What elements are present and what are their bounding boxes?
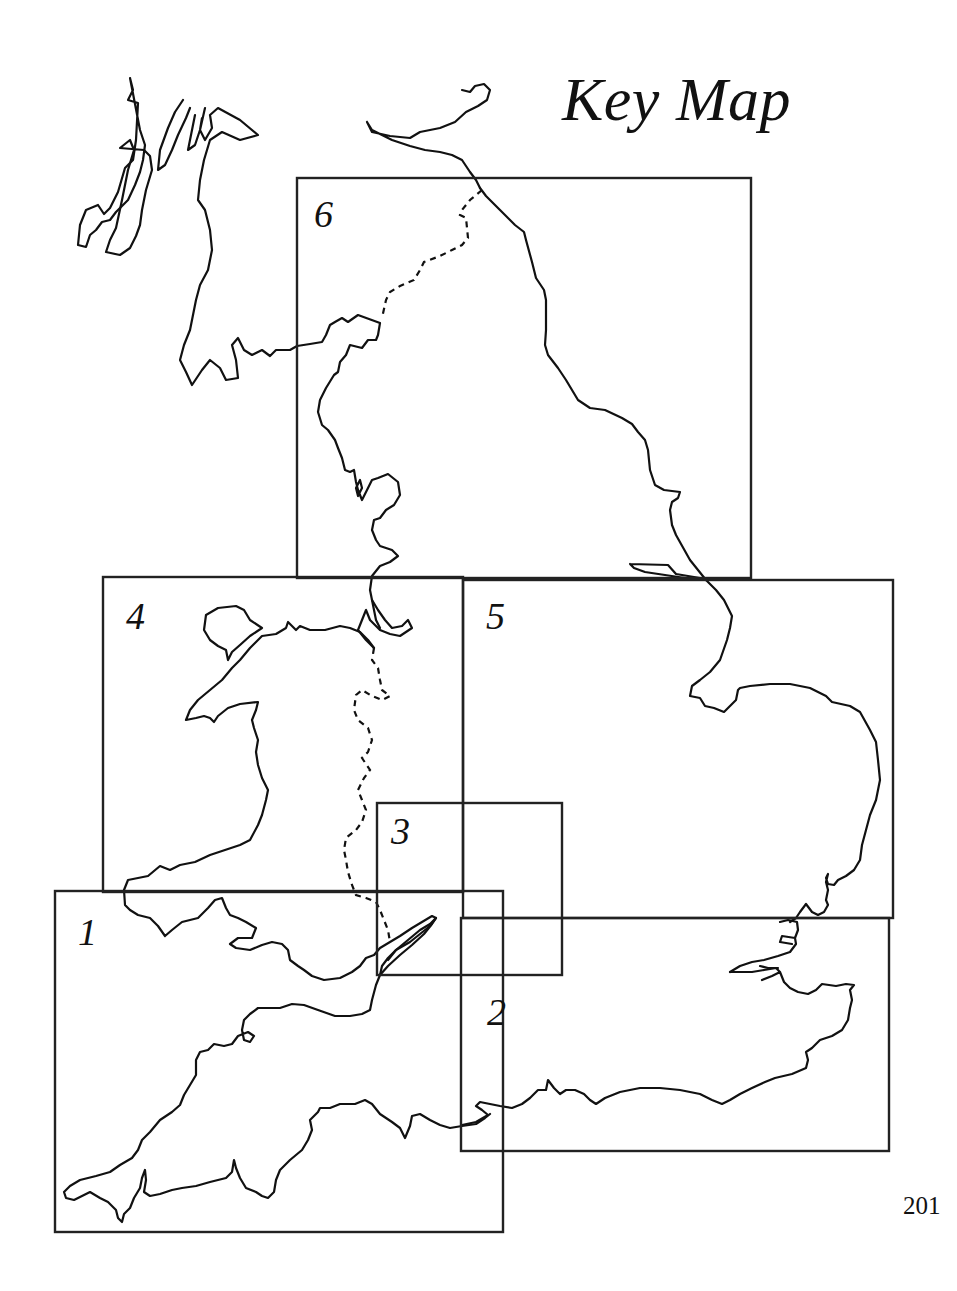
key-map-canvas [0, 0, 957, 1291]
sheet-label-3: 3 [391, 812, 410, 850]
sheet-label-5: 5 [486, 597, 505, 635]
sheet-label-6: 6 [314, 195, 333, 233]
coast-thames [730, 920, 798, 972]
coast-scotland-west [78, 78, 145, 247]
sheet-box-1[interactable] [55, 891, 503, 1232]
border-scotland-england [382, 190, 482, 318]
coast-wales [124, 622, 436, 980]
coast-anglesey [204, 606, 262, 660]
coastlines [64, 78, 880, 1222]
coast-severn [380, 918, 436, 975]
sheet-box-6[interactable] [297, 178, 751, 578]
sheet-label-4: 4 [126, 597, 145, 635]
page-number: 201 [903, 1192, 941, 1220]
sheet-boxes [55, 178, 893, 1232]
sheet-label-1: 1 [78, 913, 97, 951]
coast-mersey [358, 600, 412, 648]
coast-south-england [462, 968, 854, 1125]
coast-southwest-peninsula [64, 975, 490, 1222]
border-wales-england [344, 648, 390, 942]
coast-england-northwest [297, 315, 400, 628]
sheet-label-2: 2 [487, 993, 506, 1031]
borders [344, 190, 482, 942]
coast-scotland-mainland-west [158, 100, 297, 385]
coast-scotland-east [367, 84, 490, 188]
coast-england-east [480, 188, 706, 580]
page-title: Key Map [562, 68, 791, 130]
sheet-box-5[interactable] [463, 580, 893, 918]
sheet-box-2[interactable] [461, 918, 889, 1151]
coast-east-anglia [690, 580, 880, 922]
